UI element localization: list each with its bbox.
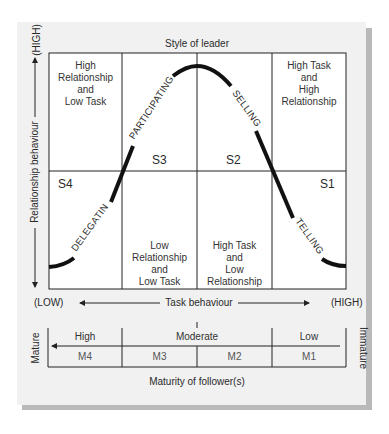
text-line: Low xyxy=(197,264,272,276)
style-code-s4: S4 xyxy=(58,178,73,190)
quadrant-high-rel-low-task: High Relationship and Low Task xyxy=(49,60,122,108)
text-line: High xyxy=(49,60,122,72)
text-line: High xyxy=(272,84,346,96)
text-line: and xyxy=(49,84,122,96)
maturity-moderate: Moderate xyxy=(122,331,272,343)
text-line: Relationship xyxy=(197,276,272,288)
text-line: Low Task xyxy=(49,96,122,108)
quadrant-high-task-high-rel: High Task and High Relationship xyxy=(272,60,346,108)
x-axis-low: (LOW) xyxy=(34,297,63,309)
maturity-caption: Maturity of follower(s) xyxy=(0,376,389,388)
maturity-code-m3: M3 xyxy=(122,351,197,363)
text-line: and xyxy=(272,72,346,84)
y-axis-label: Relationship behaviour xyxy=(29,120,40,222)
text-line: Relationship xyxy=(272,96,346,108)
mature-label: Mature xyxy=(30,332,41,364)
text-line: High Task xyxy=(197,240,272,252)
text-line: Relationship xyxy=(49,72,122,84)
maturity-code-m4: M4 xyxy=(48,351,122,363)
style-code-s2: S2 xyxy=(226,154,241,166)
text-line: and xyxy=(197,252,272,264)
x-axis-label: Task behaviour xyxy=(163,297,235,309)
maturity-high: High xyxy=(48,331,122,343)
diagram-title: Style of leader xyxy=(0,38,389,50)
style-code-s1: S1 xyxy=(320,178,335,190)
style-code-s3: S3 xyxy=(152,154,167,166)
quadrant-low-rel-low-task: Low Relationship and Low Task xyxy=(122,240,197,288)
quadrant-high-task-low-rel: High Task and Low Relationship xyxy=(197,240,272,288)
text-line: High Task xyxy=(272,60,346,72)
maturity-code-m1: M1 xyxy=(272,351,346,363)
immature-label: Immature xyxy=(358,327,369,370)
text-line: and xyxy=(122,264,197,276)
text-line: Low xyxy=(122,240,197,252)
maturity-code-m2: M2 xyxy=(197,351,272,363)
maturity-low: Low xyxy=(272,331,346,343)
text-line: Low Task xyxy=(122,276,197,288)
x-axis-high: (HIGH) xyxy=(331,297,363,309)
text-line: Relationship xyxy=(122,252,197,264)
